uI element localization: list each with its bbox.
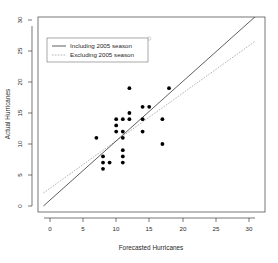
data-point [121, 155, 125, 159]
y-axis-tick-labels: 0 5 10 15 20 25 30 [16, 16, 23, 208]
x-tick-label: 15 [146, 225, 153, 232]
x-tick-label: 30 [246, 225, 253, 232]
legend: Including 2005 season Excluding 2005 sea… [47, 38, 148, 62]
data-point [101, 161, 105, 165]
data-point [114, 124, 118, 128]
x-tick-label: 20 [180, 225, 187, 232]
data-point [121, 161, 125, 165]
data-point [141, 117, 145, 121]
data-point [141, 130, 145, 134]
legend-label-including-2005: Including 2005 season [70, 42, 132, 49]
x-tick-label: 25 [213, 225, 220, 232]
y-tick-label: 5 [16, 173, 23, 177]
fit-line-excluding-2005 [43, 41, 255, 193]
data-point [161, 142, 165, 146]
scatter-plot-figure: 0 5 10 15 20 25 30 0 5 10 15 20 25 30 [0, 0, 278, 263]
data-point [101, 155, 105, 159]
data-point [101, 167, 105, 171]
data-point [161, 117, 165, 121]
y-tick-label: 25 [16, 47, 23, 54]
data-point [108, 161, 112, 165]
data-points [95, 86, 171, 170]
y-tick-label: 30 [16, 16, 23, 23]
plot-canvas: 0 5 10 15 20 25 30 0 5 10 15 20 25 30 [0, 0, 278, 263]
x-tick-label: 5 [81, 225, 85, 232]
data-point [121, 130, 125, 134]
data-point [127, 111, 131, 115]
data-point [114, 130, 118, 134]
x-tick-label: 0 [48, 225, 52, 232]
data-point [127, 117, 131, 121]
x-tick-label: 10 [113, 225, 120, 232]
data-point [127, 86, 131, 90]
y-tick-label: 0 [16, 204, 23, 208]
x-axis-ticks [50, 218, 249, 222]
data-point [114, 117, 118, 121]
data-point [95, 136, 99, 140]
y-axis-title: Actual Hurricanes [4, 89, 11, 139]
data-point [167, 86, 171, 90]
data-point [121, 136, 125, 140]
data-point [121, 117, 125, 121]
y-tick-label: 20 [16, 78, 23, 85]
data-point [147, 105, 151, 109]
data-point [121, 148, 125, 152]
y-axis-ticks [28, 20, 32, 206]
x-axis-tick-labels: 0 5 10 15 20 25 30 [48, 225, 253, 232]
x-axis-title: Forecasted Hurricanes [119, 244, 184, 251]
y-tick-label: 10 [16, 140, 23, 147]
data-point [141, 105, 145, 109]
legend-label-excluding-2005: Excluding 2005 season [70, 51, 135, 58]
y-tick-label: 15 [16, 109, 23, 116]
